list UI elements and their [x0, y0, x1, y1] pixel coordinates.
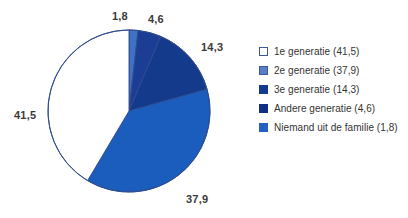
legend-item-label: 1e generatie (41,5) — [274, 46, 359, 57]
pie-chart-figure: 1,84,614,337,941,5 1e generatie (41,5)2e… — [0, 0, 408, 218]
pie-value-label: 41,5 — [14, 109, 36, 121]
legend-swatch-icon — [259, 66, 268, 75]
legend-item[interactable]: 2e generatie (37,9) — [259, 61, 408, 80]
chart-legend: 1e generatie (41,5)2e generatie (37,9)3e… — [259, 42, 408, 137]
legend-item[interactable]: 1e generatie (41,5) — [259, 42, 408, 61]
legend-swatch-icon — [259, 47, 268, 56]
legend-item-label: 3e generatie (14,3) — [274, 84, 359, 95]
pie-value-label: 4,6 — [148, 13, 164, 25]
pie-svg — [0, 0, 250, 218]
legend-swatch-icon — [259, 123, 268, 132]
legend-swatch-icon — [259, 104, 268, 113]
legend-item[interactable]: 3e generatie (14,3) — [259, 80, 408, 99]
legend-item-label: 2e generatie (37,9) — [274, 65, 359, 76]
pie-value-label: 14,3 — [201, 41, 223, 53]
pie-value-label: 37,9 — [186, 193, 208, 205]
legend-item-label: Andere generatie (4,6) — [274, 103, 375, 114]
legend-item[interactable]: Niemand uit de familie (1,8) — [259, 118, 408, 137]
legend-item[interactable]: Andere generatie (4,6) — [259, 99, 408, 118]
legend-item-label: Niemand uit de familie (1,8) — [274, 122, 398, 133]
pie-plot-area: 1,84,614,337,941,5 — [0, 0, 250, 218]
legend-swatch-icon — [259, 85, 268, 94]
pie-value-label: 1,8 — [112, 10, 128, 22]
